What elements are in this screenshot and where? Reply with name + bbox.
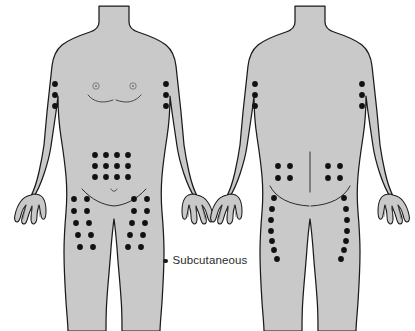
injection-dot — [275, 175, 281, 181]
injection-dot — [325, 175, 331, 181]
injection-dot — [338, 256, 344, 262]
injection-dot — [142, 220, 148, 226]
anterior-view-group — [15, 6, 214, 331]
injection-dot — [268, 217, 274, 223]
injection-dot — [73, 220, 79, 226]
injection-dot — [163, 81, 169, 87]
injection-dot — [252, 103, 258, 109]
subcutaneous-dot-icon — [163, 259, 168, 264]
anterior-left-nipple-center — [95, 85, 97, 87]
injection-dot — [271, 247, 277, 253]
injection-site-figure: Subcutaneous — [0, 0, 415, 331]
injection-dot — [75, 232, 81, 238]
injection-dot — [114, 163, 120, 169]
injection-dot — [163, 103, 169, 109]
site-left-upper-arm-posterior — [252, 81, 258, 109]
injection-dot — [140, 232, 146, 238]
site-right-upper-arm-anterior — [163, 81, 169, 109]
anterior-left-hand — [15, 194, 46, 224]
posterior-view-group — [211, 6, 410, 331]
injection-dot — [129, 220, 135, 226]
injection-dot — [269, 238, 275, 244]
injection-dot — [144, 208, 150, 214]
injection-dot — [271, 195, 277, 201]
injection-dot — [131, 208, 137, 214]
injection-dot — [90, 244, 96, 250]
injection-dot — [114, 152, 120, 158]
injection-dot — [359, 103, 365, 109]
injection-dot — [359, 81, 365, 87]
injection-dot — [71, 208, 77, 214]
injection-dot — [343, 238, 349, 244]
posterior-right-hand — [378, 194, 409, 224]
body-diagram-svg — [0, 0, 415, 331]
injection-dot — [84, 208, 90, 214]
injection-dot — [131, 196, 137, 202]
injection-dot — [163, 92, 169, 98]
injection-dot — [343, 206, 349, 212]
anterior-right-nipple-center — [132, 85, 134, 87]
injection-dot — [341, 195, 347, 201]
injection-dot — [77, 244, 83, 250]
injection-dot — [274, 256, 280, 262]
injection-dot — [88, 232, 94, 238]
site-right-upper-arm-posterior — [359, 81, 365, 109]
injection-dot — [341, 247, 347, 253]
injection-dot — [103, 152, 109, 158]
injection-dot — [114, 174, 120, 180]
injection-dot — [144, 196, 150, 202]
injection-dot — [252, 92, 258, 98]
injection-dot — [325, 163, 331, 169]
injection-dot — [125, 163, 131, 169]
injection-dot — [344, 217, 350, 223]
legend-label: Subcutaneous — [173, 255, 248, 267]
injection-dot — [275, 163, 281, 169]
injection-dot — [344, 228, 350, 234]
injection-dot — [359, 92, 365, 98]
anterior-body-silhouette — [31, 6, 197, 331]
site-left-upper-arm-anterior — [52, 81, 58, 109]
injection-dot — [287, 163, 293, 169]
injection-dot — [86, 220, 92, 226]
injection-dot — [103, 163, 109, 169]
injection-dot — [52, 103, 58, 109]
injection-dot — [52, 92, 58, 98]
injection-dot — [103, 174, 109, 180]
injection-dot — [92, 152, 98, 158]
injection-dot — [337, 175, 343, 181]
injection-dot — [84, 196, 90, 202]
injection-dot — [287, 175, 293, 181]
injection-dot — [92, 174, 98, 180]
injection-dot — [92, 163, 98, 169]
posterior-left-hand — [211, 194, 242, 224]
injection-dot — [268, 228, 274, 234]
injection-dot — [269, 206, 275, 212]
injection-dot — [337, 163, 343, 169]
injection-dot — [125, 152, 131, 158]
injection-dot — [138, 244, 144, 250]
injection-dot — [125, 244, 131, 250]
anterior-right-hand — [182, 194, 213, 224]
injection-dot — [127, 232, 133, 238]
injection-dot — [125, 174, 131, 180]
injection-dot — [71, 196, 77, 202]
injection-dot — [52, 81, 58, 87]
injection-dot — [252, 81, 258, 87]
legend: Subcutaneous — [163, 255, 247, 267]
